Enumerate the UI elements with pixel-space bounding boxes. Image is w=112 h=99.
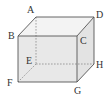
vertex-label-b: B [8,30,15,41]
vertex-label-d: D [96,9,103,20]
vertex-label-e: E [26,55,32,66]
vertex-label-c: C [80,35,87,46]
cube-diagram: A B C D E F G H [0,0,112,99]
vertex-label-f: F [7,77,13,88]
vertex-label-a: A [27,4,35,15]
vertex-label-h: H [96,59,103,70]
vertex-label-g: G [74,85,81,96]
